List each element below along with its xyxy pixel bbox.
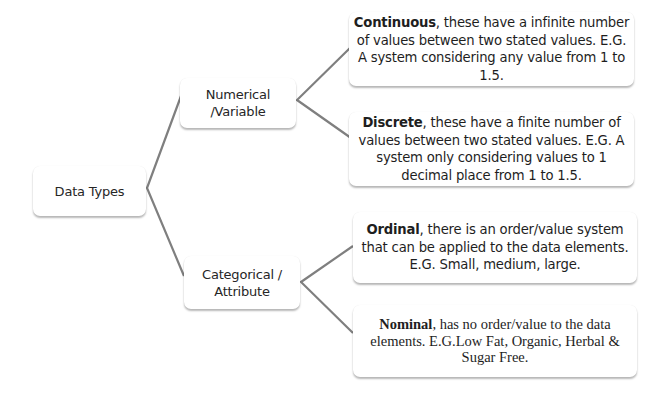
- node-categorical-attribute: Categorical / Attribute: [184, 256, 300, 309]
- node-numerical-variable: Numerical /Variable: [180, 78, 296, 128]
- node-description: Continuous, these have a infinite number…: [349, 14, 634, 84]
- node-description: Discrete, these have a finite number of …: [349, 114, 634, 184]
- term-continuous: Continuous: [354, 15, 436, 30]
- term-ordinal: Ordinal: [366, 222, 419, 237]
- connector-categorical-to-children: [301, 246, 353, 333]
- node-data-types: Data Types: [33, 166, 146, 216]
- term-nominal: Nominal: [379, 316, 432, 332]
- node-label: Data Types: [55, 183, 125, 200]
- connector-root-to-branches: [147, 96, 184, 276]
- node-label: Numerical /Variable: [206, 86, 271, 120]
- node-discrete: Discrete, these have a finite number of …: [349, 112, 634, 186]
- node-description: Ordinal, there is an order/value system …: [353, 221, 637, 274]
- node-description: Nominal, has no order/value to the data …: [353, 316, 637, 366]
- term-discrete: Discrete: [362, 115, 422, 130]
- node-label: Categorical / Attribute: [202, 266, 282, 300]
- node-ordinal: Ordinal, there is an order/value system …: [353, 212, 637, 283]
- node-continuous: Continuous, these have a infinite number…: [349, 12, 634, 86]
- node-nominal: Nominal, has no order/value to the data …: [353, 305, 637, 377]
- connector-numerical-to-children: [297, 47, 351, 138]
